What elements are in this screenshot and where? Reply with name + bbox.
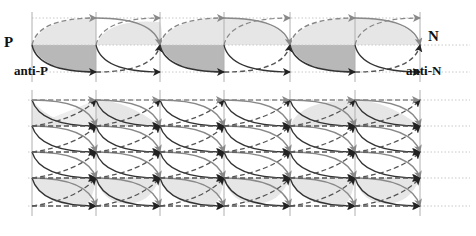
fill-region (160, 18, 224, 45)
diagram-layer (28, 12, 470, 216)
label-anti-p: anti-P (14, 63, 48, 79)
dashed-arc (224, 45, 290, 72)
oscillation-diagram (0, 0, 476, 236)
fill-region (355, 18, 420, 45)
fill-region (224, 18, 290, 45)
fill-region (96, 21, 162, 45)
label-p: P (4, 34, 13, 51)
fill-region (32, 18, 96, 45)
fill-region (290, 45, 355, 72)
solid-arc (224, 45, 290, 72)
dashed-arc (96, 45, 160, 72)
fill-region (160, 45, 224, 72)
label-n: N (428, 28, 439, 45)
label-anti-n: anti-N (406, 63, 441, 79)
fill-region (290, 18, 355, 45)
solid-arc (96, 45, 160, 72)
